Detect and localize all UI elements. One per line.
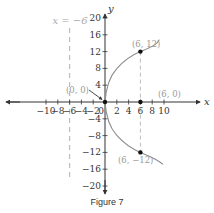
x-tick-labels: −10 −8 −6 −4 −2 0 2 4 6 8 10 xyxy=(37,106,170,116)
svg-text:−8: −8 xyxy=(88,131,102,141)
svg-text:−12: −12 xyxy=(82,147,101,157)
svg-text:20: 20 xyxy=(90,13,102,23)
svg-text:16: 16 xyxy=(90,30,102,40)
point-lower xyxy=(138,150,142,154)
y-axis-label: y xyxy=(107,3,114,14)
point-upper xyxy=(138,49,142,53)
label-upper: (6, 12) xyxy=(132,39,160,49)
svg-text:12: 12 xyxy=(90,47,101,57)
svg-text:2: 2 xyxy=(114,106,120,116)
svg-text:6: 6 xyxy=(138,106,144,116)
svg-text:4: 4 xyxy=(95,80,101,90)
svg-text:−20: −20 xyxy=(82,181,101,191)
svg-text:10: 10 xyxy=(158,106,170,116)
x-axis-label: x xyxy=(204,96,210,107)
label-vertex: (0, 0) xyxy=(66,85,89,95)
parabola-figure: x = −6 x y −10 −8 −6 −4 −2 0 2 4 6 8 10 xyxy=(0,0,214,213)
directrix-label: x = −6 xyxy=(52,15,88,26)
svg-text:−16: −16 xyxy=(82,164,101,174)
point-focus xyxy=(138,100,142,104)
label-lower: (6, −12) xyxy=(118,155,153,165)
point-vertex xyxy=(103,100,107,104)
vertex-pointer-arrow xyxy=(89,90,102,100)
figure-caption: Figure 7 xyxy=(90,197,123,207)
svg-text:4: 4 xyxy=(126,106,132,116)
svg-text:8: 8 xyxy=(149,106,155,116)
label-focus: (6, 0) xyxy=(158,89,181,99)
svg-text:8: 8 xyxy=(95,63,101,73)
svg-text:−4: −4 xyxy=(88,114,102,124)
